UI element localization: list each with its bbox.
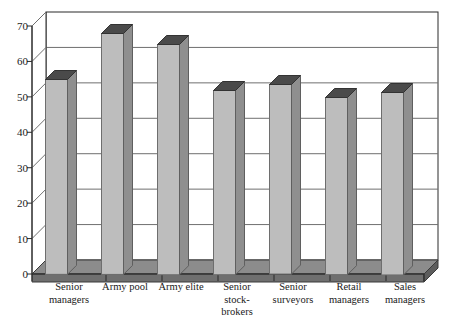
y-tick-label: 30	[17, 163, 28, 173]
y-tick-label: 70	[17, 21, 28, 31]
y-tick-label: 50	[17, 92, 28, 102]
y-tick-label: 10	[17, 234, 28, 244]
y-tick-label: 20	[17, 198, 28, 208]
x-axis-labels: Senior managers Army pool Army elite Sen…	[0, 281, 452, 327]
bar-1	[101, 24, 132, 274]
bar-3d-shape	[269, 75, 302, 276]
left-wall	[32, 12, 46, 274]
bar-3d-shape	[157, 35, 190, 276]
bar-4	[269, 75, 300, 274]
y-axis-labels: 70 60 50 40 30 20 10 0	[0, 0, 28, 327]
bar-3	[213, 81, 244, 274]
chart-figure: 70 60 50 40 30 20 10 0 Senior managers A…	[0, 0, 452, 327]
bar-5	[325, 88, 356, 274]
bar-0	[45, 70, 76, 274]
y-tick-label: 60	[17, 56, 28, 66]
bar-2	[157, 35, 188, 274]
bar-6	[381, 83, 412, 274]
y-tick-label: 0	[23, 269, 29, 279]
y-tick-label: 40	[17, 127, 28, 137]
x-tick-label: Sales managers	[370, 281, 440, 306]
bar-3d-shape	[381, 83, 414, 276]
bar-3d-shape	[45, 70, 78, 276]
bar-3d-shape	[325, 88, 358, 276]
bar-3d-shape	[101, 24, 134, 276]
bar-3d-shape	[213, 81, 246, 276]
